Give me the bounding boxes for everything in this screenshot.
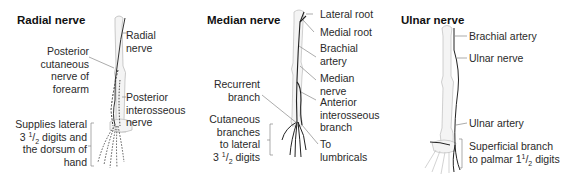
ulnar-arm-bones (432, 26, 456, 154)
ulnar-hand-bones (425, 150, 449, 174)
ulnar-nerve-title: Ulnar nerve (401, 14, 464, 26)
ulnar-nerve-panel: Ulnar nerve Brachial artery Ulnar nerve … (0, 0, 574, 185)
label-superficial-branch: Superficial branch to palmar 11/2 digits (469, 140, 560, 165)
label-ulnar-artery: Ulnar artery (469, 117, 524, 130)
label-brachial-artery-ulnar: Brachial artery (469, 30, 537, 43)
label-ulnar-nerve: Ulnar nerve (469, 52, 523, 65)
